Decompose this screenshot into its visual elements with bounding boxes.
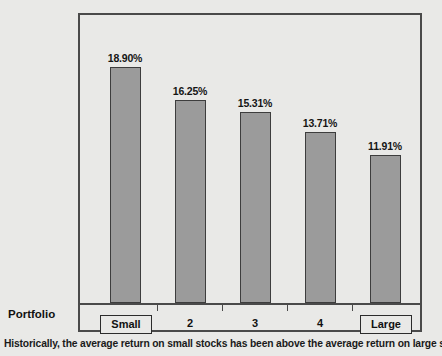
category-label-2: 2 [170, 315, 210, 332]
x-axis-tick [222, 305, 223, 311]
bar[interactable] [175, 100, 206, 303]
bar-value-label: 16.25% [155, 85, 225, 97]
category-label-3: 3 [235, 315, 275, 332]
bar-value-label: 18.90% [90, 52, 160, 64]
x-axis-title: Portfolio [8, 308, 55, 320]
x-axis-line [80, 303, 420, 305]
bar-value-label: 15.31% [220, 97, 290, 109]
figure-canvas: 18.90%16.25%15.31%13.71%11.91%Small234La… [0, 0, 442, 356]
bar[interactable] [240, 112, 271, 303]
bar[interactable] [370, 155, 401, 303]
bar[interactable] [305, 132, 336, 303]
figure-caption: Historically, the average return on smal… [4, 338, 440, 349]
x-axis-tick [287, 305, 288, 311]
bar-value-label: 13.71% [285, 117, 355, 129]
x-axis-tick [352, 305, 353, 311]
plot-area: 18.90%16.25%15.31%13.71%11.91%Small234La… [80, 15, 420, 330]
category-label-4: 4 [300, 315, 340, 332]
bar[interactable] [110, 67, 141, 303]
category-label-large: Large [360, 315, 412, 334]
x-axis-tick [157, 305, 158, 311]
category-label-small: Small [100, 315, 152, 334]
bar-value-label: 11.91% [350, 140, 420, 152]
chart-frame: 18.90%16.25%15.31%13.71%11.91%Small234La… [78, 13, 422, 332]
